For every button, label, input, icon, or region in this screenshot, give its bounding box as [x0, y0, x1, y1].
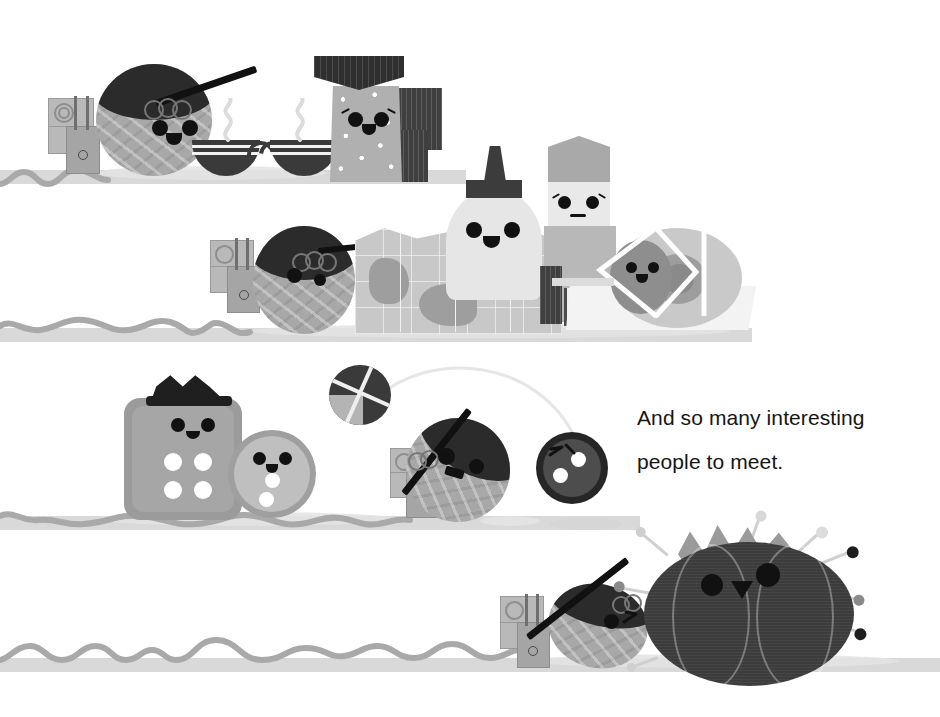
eraser-block-top: [548, 136, 610, 182]
yarn-ball-2-eye-right: [314, 274, 326, 286]
eraser-eye-right: [586, 196, 599, 209]
tape-strip: [552, 278, 614, 286]
backpack-2-strap-a: [235, 238, 238, 270]
pin-1: [639, 531, 669, 556]
glue-bottle-nozzle: [484, 146, 506, 182]
teacup-right-rim-1: [270, 145, 338, 148]
backpack-4-strap-a: [525, 594, 528, 626]
yarn-ball-traveler-2: [253, 226, 355, 334]
yarn-thread-4: [0, 628, 540, 678]
backpack-2-buckle-icon: [239, 290, 249, 300]
dark-button-hole-2: [553, 468, 568, 483]
tossed-ball-shadow: [550, 518, 622, 530]
eraser-mouth: [570, 214, 586, 217]
yarn-loops-icon-2: [292, 250, 338, 270]
square-button-hole-4: [194, 481, 212, 499]
ribbed-block-small: [540, 266, 562, 324]
map-landmass-1: [369, 258, 409, 304]
backpack-strap-a: [74, 96, 77, 130]
steam-right: [284, 98, 320, 142]
paper-crown-brim: [146, 396, 232, 406]
glue-eye-left: [466, 222, 482, 238]
map-fold-line-a: [400, 232, 401, 332]
illustration-page: And so many interesting people to meet.: [0, 0, 940, 717]
square-button-hole-1: [164, 453, 182, 471]
round-button-eye-left: [253, 452, 266, 465]
backpack-4-buckle-icon: [528, 646, 538, 656]
yarn-ball-4-eye-left: [604, 614, 619, 629]
eraser-eye-left: [558, 196, 571, 209]
round-button-eye-right: [279, 452, 292, 465]
yarn-ball-3-eye-right: [469, 459, 484, 474]
yarn-ball-2-eye-left: [287, 268, 302, 283]
square-button-eye-right: [201, 418, 215, 432]
backpack-2-spiral-icon: [215, 245, 234, 264]
backpack-2-strap-b: [246, 238, 249, 270]
backpack-spiral-inner-icon: [58, 107, 70, 119]
shaker-eye-right: [374, 112, 389, 127]
backpack-buckle-icon: [78, 150, 88, 160]
round-button-hole-2: [259, 492, 274, 507]
caption-line-1: And so many interesting: [637, 396, 917, 440]
tape-blade-outline: [596, 228, 746, 318]
yarn-loops-icon-3: [408, 450, 442, 470]
yarn-loops-icon: [144, 96, 190, 116]
cushion-eye-right: [756, 563, 780, 587]
square-button-hole-3: [164, 481, 182, 499]
teacup-right-rim-2: [270, 152, 338, 155]
teacup-right: [262, 140, 338, 176]
backpack-4-spiral-icon: [505, 601, 524, 620]
backpack-4-strap-b: [536, 594, 539, 626]
tossed-yarn-ball: [329, 365, 391, 425]
caption-line-2: people to meet.: [637, 440, 917, 484]
shaker-eye-left: [348, 112, 363, 127]
glue-bottle-cap-ring: [466, 180, 522, 198]
square-button-eye-left: [171, 418, 185, 432]
backpack-strap-b: [86, 96, 89, 130]
square-button-hole-2: [194, 453, 212, 471]
shaker-hat: [314, 56, 404, 90]
yarn-ball-eye-right: [182, 120, 198, 136]
cushion-seam-left: [672, 544, 750, 690]
stray-shadow-a: [480, 516, 540, 526]
yarn-ball-3-eye-left: [438, 448, 455, 465]
dark-button-closed-eyes-icon: [548, 443, 588, 465]
steam-left: [212, 98, 248, 142]
page-caption: And so many interesting people to meet.: [637, 396, 917, 484]
teacup-left: [192, 140, 268, 176]
round-button-hole-1: [265, 473, 280, 488]
cushion-eye-left: [701, 574, 723, 596]
glue-eye-right: [504, 222, 520, 238]
